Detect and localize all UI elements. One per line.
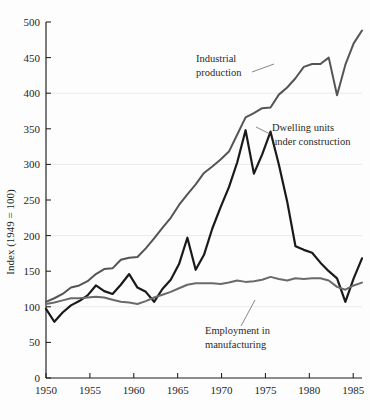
chart-plot-area: 500 450 400 350 300 250 200 150 100 50 0… bbox=[0, 0, 370, 420]
annotation-industrial-line2: production bbox=[196, 67, 242, 78]
leader-line-employment-manufacturing bbox=[241, 300, 255, 326]
y-tick-labels: 500 450 400 350 300 250 200 150 100 50 0 bbox=[24, 16, 41, 384]
y-tick-marks bbox=[46, 22, 51, 378]
y-tick-label-450: 450 bbox=[24, 52, 41, 64]
series-line-employment-manufacturing bbox=[46, 277, 362, 304]
annotation-employment-line1: Employment in bbox=[205, 325, 271, 336]
annotation-dwelling-units: Dwelling units under construction bbox=[272, 122, 351, 147]
y-axis-title: Index (1949 = 100) bbox=[4, 189, 17, 275]
x-tick-label-1960: 1960 bbox=[123, 384, 146, 396]
x-tick-label-1955: 1955 bbox=[79, 384, 102, 396]
x-tick-label-1965: 1965 bbox=[167, 384, 190, 396]
annotation-dwelling-line1: Dwelling units bbox=[272, 122, 334, 133]
annotation-dwelling-line2: under construction bbox=[272, 136, 351, 147]
leader-line-dwelling-units bbox=[256, 127, 270, 134]
x-tick-label-1985: 1985 bbox=[342, 384, 365, 396]
y-tick-label-100: 100 bbox=[24, 301, 41, 313]
annotation-industrial-line1: Industrial bbox=[196, 53, 236, 64]
y-tick-label-200: 200 bbox=[24, 230, 41, 242]
y-tick-label-500: 500 bbox=[24, 16, 41, 28]
y-tick-label-150: 150 bbox=[24, 265, 41, 277]
y-tick-label-350: 350 bbox=[24, 123, 41, 135]
x-tick-labels: 1950 1955 1960 1965 1970 1975 1980 1985 bbox=[35, 384, 365, 396]
y-tick-label-50: 50 bbox=[29, 336, 41, 348]
y-tick-label-400: 400 bbox=[24, 87, 41, 99]
x-tick-label-1970: 1970 bbox=[211, 384, 234, 396]
leader-line-industrial-production bbox=[252, 64, 274, 72]
annotation-leaders bbox=[241, 64, 274, 326]
annotation-employment-line2: manufacturing bbox=[205, 339, 267, 350]
x-tick-label-1950: 1950 bbox=[35, 384, 58, 396]
chart-figure: 500 450 400 350 300 250 200 150 100 50 0… bbox=[0, 0, 370, 420]
x-tick-label-1980: 1980 bbox=[298, 384, 321, 396]
x-tick-label-1975: 1975 bbox=[254, 384, 277, 396]
series-line-dwelling-units bbox=[46, 130, 362, 322]
y-tick-label-300: 300 bbox=[24, 158, 41, 170]
x-tick-marks bbox=[46, 373, 353, 378]
y-tick-label-0: 0 bbox=[35, 372, 41, 384]
annotation-employment-manufacturing: Employment in manufacturing bbox=[205, 325, 271, 350]
annotation-industrial-production: Industrial production bbox=[196, 53, 242, 78]
y-tick-label-250: 250 bbox=[24, 194, 41, 206]
